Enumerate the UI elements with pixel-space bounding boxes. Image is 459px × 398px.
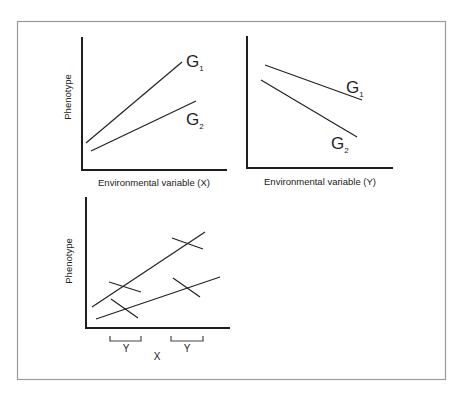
axes <box>247 36 393 168</box>
x-axis-label: Environmental variable (X) <box>98 177 210 188</box>
bracket-left <box>110 336 141 341</box>
label-g1: G1 <box>346 78 364 99</box>
x-axis-label: Environmental variable (Y) <box>264 176 376 187</box>
bracket-right <box>171 336 203 341</box>
y-axis-label: Phenotype <box>63 238 74 283</box>
bracket-label-left: Y <box>123 343 130 354</box>
panel-top-left: G1 G2 Phenotype Environmental variable (… <box>62 37 227 188</box>
cross-lower-left <box>111 299 138 318</box>
label-g1: G1 <box>186 52 204 73</box>
x-axis-label: X <box>154 351 161 362</box>
figure-canvas: G1 G2 Phenotype Environmental variable (… <box>0 0 459 398</box>
panel-bottom: Y Y X Phenotype <box>63 197 230 362</box>
bracket-label-right: Y <box>184 343 191 354</box>
label-g2: G2 <box>186 110 204 131</box>
panel-top-right: G1 G2 Environmental variable (Y) <box>247 36 393 187</box>
label-g2: G2 <box>331 134 349 155</box>
line-g2 <box>261 80 357 137</box>
cross-upper-left <box>109 282 141 292</box>
y-axis-label: Phenotype <box>62 74 73 119</box>
axes <box>82 37 227 170</box>
cross-lower-right <box>173 278 200 297</box>
cross-upper-right <box>172 238 203 249</box>
